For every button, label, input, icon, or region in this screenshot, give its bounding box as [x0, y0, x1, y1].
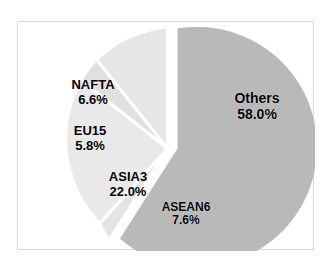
pie-label-eu15-value: 5.8% [48, 139, 132, 154]
pie-label-eu15: EU15 5.8% [48, 124, 132, 153]
pie-label-asia3: ASIA3 22.0% [80, 170, 176, 199]
pie-label-asia3-value: 22.0% [80, 185, 176, 200]
pie-label-others-value: 58.0% [209, 107, 305, 123]
pie-label-eu15-name: EU15 [48, 124, 132, 139]
pie-label-nafta-value: 6.6% [51, 93, 135, 108]
pie-chart-frame: Others 58.0% NAFTA 6.6% EU15 5.8% ASIA3 … [17, 21, 314, 250]
pie-label-asean6-name: ASEAN6 [140, 201, 232, 214]
pie-label-asia3-name: ASIA3 [80, 170, 176, 185]
pie-label-others: Others 58.0% [209, 91, 305, 122]
pie-label-nafta-name: NAFTA [51, 78, 135, 93]
pie-label-nafta: NAFTA 6.6% [51, 78, 135, 107]
cut-off-caption-text: · ·· ··· ·· ···· ·· ··· [0, 0, 333, 9]
pie-label-asean6: ASEAN6 7.6% [140, 201, 232, 228]
pie-label-asean6-value: 7.6% [140, 214, 232, 227]
pie-label-others-name: Others [209, 91, 305, 107]
